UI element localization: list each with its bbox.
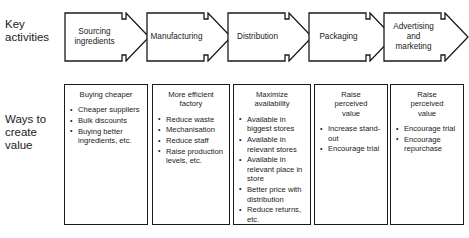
bullet-item: Reduce returns, etc. [238,205,306,224]
value-chain-diagram: Key activities Ways to create value Sour… [0,0,469,238]
bullet-item: Encourage repurchase [395,135,459,154]
arrow-stage-5[interactable]: Advertising and marketing [383,12,469,62]
arrow-stage-3[interactable]: Distribution [227,12,313,62]
value-box-bullets-stage-1: Cheaper suppliers Bulk discounts Buying … [69,105,143,145]
bullet-item: Mechanisation [157,125,225,135]
bullet-item: Reduce waste [157,115,225,125]
arrow-label-stage-5: Advertising and marketing [384,12,443,62]
bullet-item: Cheaper suppliers [69,105,143,115]
value-box-bullets-stage-2: Reduce waste Mechanisation Reduce staff … [157,115,225,166]
row-label-key-activities: Key activities [5,18,57,44]
value-box-bullets-stage-4: Increase stand-out Encourage trial [319,124,383,154]
value-box-stage-3: Maximize availability Available in bigge… [233,84,311,225]
bullet-item: Available in relevant place in store [238,155,306,184]
value-box-stage-1: Buying cheaper Cheaper suppliers Bulk di… [64,84,148,225]
value-box-title-stage-3: Maximize availability [238,90,306,109]
value-box-title-stage-1: Buying cheaper [69,90,143,99]
row-label-ways-to-create-value: Ways to create value [5,113,57,152]
bullet-item: Encourage trial [395,124,459,134]
bullet-item: Reduce staff [157,136,225,146]
bullet-item: Better price with distribution [238,185,306,204]
arrow-stage-1[interactable]: Sourcing ingredients [64,12,150,62]
bullet-item: Available in relevant stores [238,135,306,154]
arrow-label-stage-3: Distribution [229,12,286,62]
value-box-stage-4: Raise perceived value Increase stand-out… [314,84,388,225]
bullet-item: Raise production levels, etc. [157,147,225,166]
bullet-item: Encourage trial [319,144,383,154]
value-box-stage-2: More efficient factory Reduce waste Mech… [152,84,230,225]
value-box-title-stage-4: Raise perceived value [319,90,383,118]
value-box-stage-5: Raise perceived value Encourage trial En… [390,84,464,225]
bullet-item: Increase stand-out [319,124,383,143]
arrow-label-stage-2: Manufacturing [148,12,205,62]
arrow-label-stage-1: Sourcing ingredients [67,12,122,62]
bullet-item: Bulk discounts [69,116,143,126]
value-box-title-stage-2: More efficient factory [157,90,225,109]
value-box-title-stage-5: Raise perceived value [395,90,459,118]
value-box-bullets-stage-5: Encourage trial Encourage repurchase [395,124,459,154]
arrow-stage-4[interactable]: Packaging [308,12,394,62]
arrow-stage-2[interactable]: Manufacturing [146,12,232,62]
arrow-label-stage-4: Packaging [310,12,367,62]
bullet-item: Available in biggest stores [238,115,306,134]
value-box-bullets-stage-3: Available in biggest stores Available in… [238,115,306,225]
bullet-item: Buying better ingredients, etc. [69,127,143,146]
